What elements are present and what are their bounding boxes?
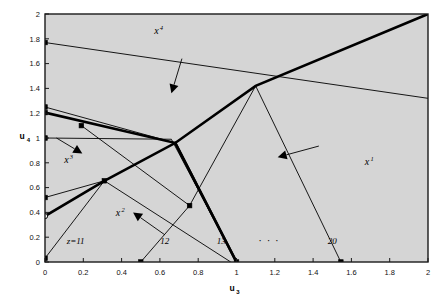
x-tick-label: 0.8 [193, 268, 203, 277]
y-tick-label: 0.8 [30, 159, 40, 168]
y-tick-label: 0.6 [30, 183, 40, 192]
y-tick-label: 0.4 [30, 208, 40, 217]
region-x2: x [115, 207, 121, 218]
x-tick-label: 1 [234, 268, 238, 277]
x-tick-label: 2 [426, 268, 430, 277]
x-tick-label: 0.4 [116, 268, 126, 277]
region-x4: x [153, 25, 159, 36]
parametric-region-plot: x4x3x2x1z=111213· · ·20 00.20.40.60.811.… [0, 0, 448, 301]
figure-container: x4x3x2x1z=111213· · ·20 00.20.40.60.811.… [0, 0, 448, 301]
x-tick-label: 0.2 [78, 268, 88, 277]
label-20: 20 [328, 236, 338, 246]
region-x3: x [63, 154, 69, 165]
vertex-marker-filled [102, 178, 107, 183]
vertex-marker-filled [79, 123, 84, 128]
x-tick-label: 1.8 [384, 268, 394, 277]
x-axis-title: u [229, 283, 234, 293]
y-tick-label: 1.4 [30, 84, 40, 93]
x-tick-label: 0.6 [155, 268, 165, 277]
x-tick-label: 1.6 [346, 268, 356, 277]
region-x1: x [364, 156, 370, 167]
y-tick-label: 1.6 [30, 59, 40, 68]
label-13: 13 [217, 236, 227, 246]
y-tick-label: 2 [36, 10, 40, 19]
region-x1-superscript: 1 [370, 155, 373, 162]
label-dots: · · · [258, 234, 280, 246]
x-tick-label: 0 [43, 268, 47, 277]
y-tick-label: 1.2 [30, 109, 40, 118]
y-tick-label: 0 [36, 258, 40, 267]
x-tick-label: 1.4 [308, 268, 318, 277]
y-axis-title: u [19, 131, 24, 141]
y-tick-label: 1.8 [30, 35, 40, 44]
label-12: 12 [160, 236, 170, 246]
y-tick-label: 0.2 [30, 233, 40, 242]
label-z11: z=11 [66, 236, 85, 246]
vertex-marker-filled [187, 203, 192, 208]
y-tick-label: 1 [36, 134, 40, 143]
x-tick-label: 1.2 [270, 268, 280, 277]
